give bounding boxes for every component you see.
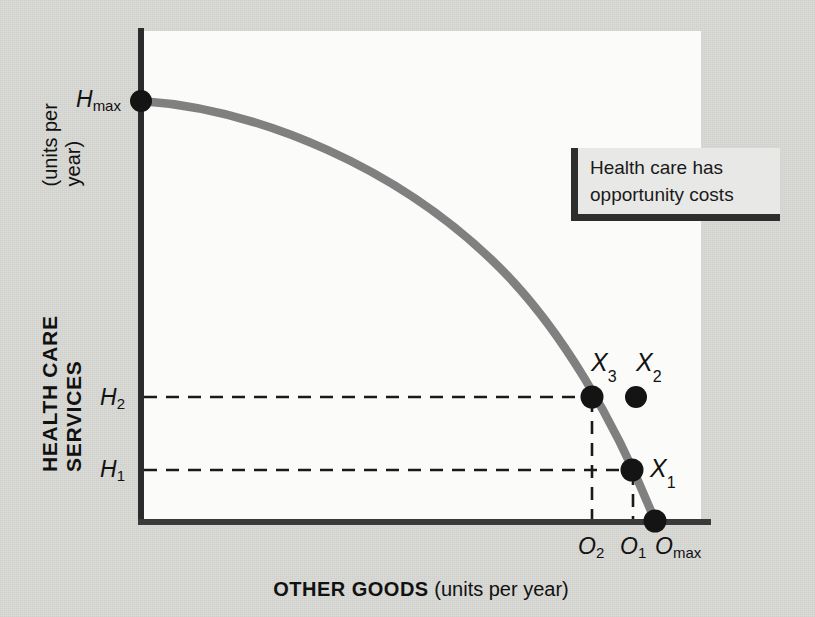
figure-canvas: HEALTH CARE SERVICES (units per year) OT…	[0, 0, 815, 617]
x-tick-o2-subscript: 2	[596, 544, 604, 561]
x-axis-title: OTHER GOODS (units per year)	[141, 578, 701, 601]
point-x1-symbol: X	[650, 454, 667, 482]
point-x2-subscript: 2	[653, 368, 662, 385]
x-tick-label-o1: O1	[620, 533, 646, 560]
x-tick-o2-symbol: O	[578, 533, 596, 559]
point-x1-subscript: 1	[667, 474, 676, 491]
y-tick-hmax-symbol: H	[76, 86, 93, 112]
y-tick-hmax-subscript: max	[93, 97, 121, 114]
x-tick-label-o2: O2	[578, 533, 604, 560]
x-tick-label-omax: Omax	[655, 533, 701, 560]
x-tick-o1-subscript: 1	[638, 544, 646, 561]
x-tick-omax-symbol: O	[655, 533, 673, 559]
x-axis-title-units: (units per year)	[434, 578, 569, 600]
callout-line-2: opportunity costs	[590, 181, 780, 208]
y-tick-h2-symbol: H	[100, 384, 117, 410]
point-label-x3: X3	[591, 348, 617, 381]
plot-area	[141, 31, 701, 523]
x-axis-line	[138, 519, 711, 525]
callout-line-1: Health care has	[590, 154, 780, 181]
point-x2-symbol: X	[636, 348, 653, 376]
y-tick-h2-subscript: 2	[117, 395, 125, 412]
point-label-x2: X2	[636, 348, 662, 381]
y-axis-title-main: HEALTH CARE SERVICES	[38, 197, 86, 472]
x-tick-o1-symbol: O	[620, 533, 638, 559]
callout-box: Health care has opportunity costs	[578, 148, 780, 214]
point-label-x1: X1	[650, 454, 676, 487]
point-x3-subscript: 3	[608, 368, 617, 385]
x-tick-omax-subscript: max	[673, 544, 701, 561]
y-tick-label-hmax: Hmax	[76, 86, 121, 113]
x-axis-title-main: OTHER GOODS	[273, 578, 429, 600]
y-tick-label-h2: H2	[100, 384, 125, 411]
y-axis-line	[138, 28, 144, 525]
y-tick-h1-subscript: 1	[117, 467, 125, 484]
y-axis-title: HEALTH CARE SERVICES (units per year)	[32, 52, 92, 472]
y-tick-h1-symbol: H	[100, 456, 117, 482]
y-axis-title-units: (units per year)	[39, 52, 85, 186]
y-tick-label-h1: H1	[100, 456, 125, 483]
point-x3-symbol: X	[591, 348, 608, 376]
